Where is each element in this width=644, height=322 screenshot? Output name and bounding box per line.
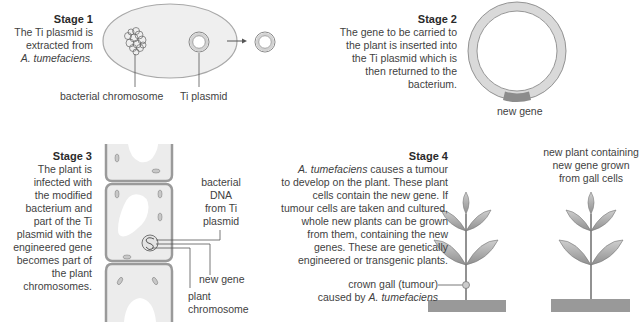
bacterium-cell bbox=[103, 4, 237, 78]
stage3-description: Stage 3 The plant is infected with the m… bbox=[13, 150, 92, 293]
bacterial-dna-label: bacterial DNA from Ti plasmid bbox=[196, 176, 246, 228]
extracted-plasmid-icon bbox=[255, 32, 275, 52]
nucleus-icon bbox=[142, 235, 158, 251]
stage1-title: Stage 1 bbox=[14, 13, 93, 26]
stage3-new-gene-label: new gene bbox=[199, 273, 245, 286]
stage1-description: Stage 1 The Ti plasmid is extracted from… bbox=[14, 13, 93, 65]
stage2-description: Stage 2 The gene to be carried to the pl… bbox=[340, 13, 457, 91]
ti-plasmid-icon bbox=[189, 32, 209, 52]
ti-plasmid-label: Ti plasmid bbox=[180, 90, 227, 103]
new-plant-icon bbox=[551, 192, 630, 312]
plant-cells-icon bbox=[106, 144, 172, 322]
recombinant-plasmid-icon bbox=[468, 2, 566, 102]
bacterial-chromosome-label: bacterial chromosome bbox=[60, 90, 163, 103]
crown-gall-label: crown gall (tumour) caused by A. tumefac… bbox=[318, 278, 438, 304]
new-plant-label: new plant containing new gene grown from… bbox=[536, 146, 644, 185]
stage2-title: Stage 2 bbox=[340, 13, 457, 26]
new-gene-label: new gene bbox=[497, 105, 543, 118]
stage3-title: Stage 3 bbox=[13, 150, 92, 163]
stage4-description: Stage 4 A. tumefaciens causes a tumour t… bbox=[281, 150, 448, 267]
crown-gall bbox=[463, 282, 470, 289]
stage4-title: Stage 4 bbox=[281, 150, 448, 163]
plant-chromosome-label: plant chromosome bbox=[188, 290, 249, 316]
